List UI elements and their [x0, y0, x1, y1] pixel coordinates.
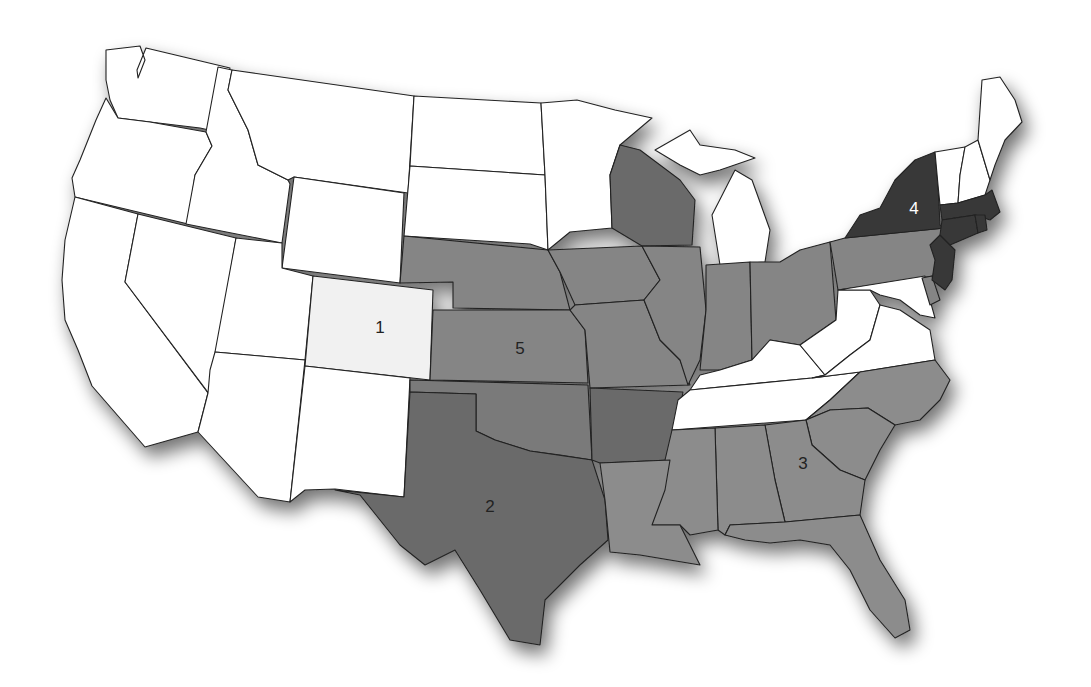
- region-label-2: 2: [485, 497, 494, 516]
- state-michigan[interactable]: [712, 170, 770, 265]
- state-new-mexico[interactable]: [290, 366, 410, 502]
- state-colorado[interactable]: [305, 276, 433, 380]
- state-north-dakota[interactable]: [410, 96, 545, 175]
- region-label-1: 1: [375, 318, 384, 337]
- state-south-dakota[interactable]: [404, 166, 548, 250]
- region-label-5: 5: [515, 339, 524, 358]
- state-michigan-up[interactable]: [655, 130, 755, 175]
- region-label-3: 3: [798, 454, 807, 473]
- state-florida[interactable]: [725, 515, 910, 638]
- state-arizona[interactable]: [198, 352, 305, 502]
- state-wyoming[interactable]: [282, 177, 404, 283]
- state-connecticut[interactable]: [940, 215, 978, 245]
- state-kansas[interactable]: [430, 310, 588, 383]
- state-indiana[interactable]: [700, 262, 752, 370]
- state-new-york[interactable]: [845, 152, 945, 238]
- us-choropleth-map: 1 2 3 4 5: [0, 0, 1091, 687]
- states-group: [62, 46, 1022, 645]
- region-label-4: 4: [909, 199, 918, 218]
